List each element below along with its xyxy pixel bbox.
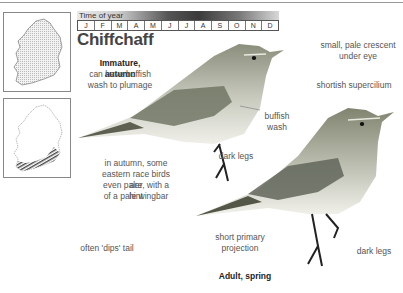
top-rule [0,2,403,3]
annotation-text: dark legs [354,246,394,257]
month: O [228,21,245,30]
annotation-text: small, pale crescent [318,40,398,51]
month: M [144,21,161,30]
annotation-text: dark legs [216,151,256,162]
month: J [78,21,94,30]
month: J [178,21,195,30]
time-of-year-bar: Time of year J F M A M J J A S O N D [77,11,279,31]
annotation-text: shortish supercilium [312,80,396,91]
month: N [245,21,262,30]
distribution-map-hatched [3,98,71,178]
annotation-text: can have buffish [86,69,154,80]
annotation-text: often 'dips' tail [72,243,142,254]
month: A [127,21,144,30]
month: S [211,21,228,30]
time-of-year-label: Time of year [77,11,279,20]
distribution-map-resident [3,12,71,92]
month: A [194,21,211,30]
month: M [111,21,128,30]
annotation-text: under eye [318,51,398,62]
annotation-text: wash to plumage [86,80,154,91]
annotation-text: in autumn, some [96,158,176,169]
annotation-text: short primary [210,232,270,243]
annotation-text: buffish [262,111,292,122]
adult-spring-heading: Adult, spring [210,271,280,282]
month: D [261,21,278,30]
annotation-text: of a pale wingbar [96,191,176,202]
annotation-text: wash [262,122,292,133]
annotation-text: projection [210,243,270,254]
month: J [161,21,178,30]
month: F [94,21,111,30]
